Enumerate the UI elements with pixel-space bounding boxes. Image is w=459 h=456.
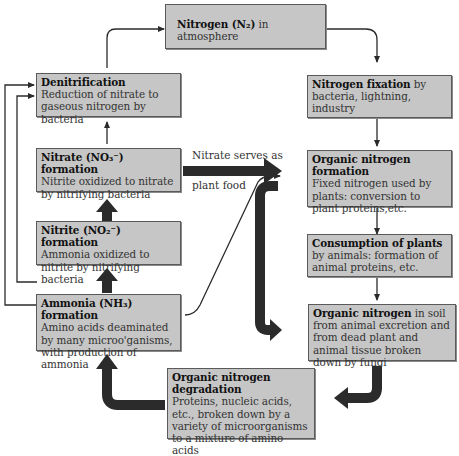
arrow-degradation-to-ammonia [107,367,165,405]
node-denitrification: Denitrification Reduction of nitrate to … [36,73,181,117]
node-heading: Organic nitrogen formation [312,153,411,177]
edge-label-bottom: plant food [192,179,246,191]
node-heading: Nitrite (NO₂⁻) formation [41,224,121,248]
node-heading: Denitrification [41,76,126,88]
arrow-denitrification-to-atmosphere [107,29,164,68]
node-heading: Organic nitrogen [313,307,412,319]
arrow-soil-to-degradation [346,366,377,398]
arrow-atmosphere-to-fixation [327,29,377,62]
arrow-nitrite-to-denitrification [17,96,37,282]
node-organic-nitrogen-formation: Organic nitrogen formationFixed nitrogen… [307,150,452,207]
node-heading: Nitrate (NO₃⁻) formation [41,151,124,175]
arrow-nitrite-to-nitrate [96,199,118,222]
node-heading: Nitrogen (N₂) [177,18,255,30]
node-heading: Nitrogen fixation [312,78,411,90]
node-nitrite-formation: Nitrite (NO₂⁻) formationAmmonia oxidized… [36,221,181,265]
node-organic-nitrogen-soil: Organic nitrogen in soil from animal exc… [308,304,456,361]
arrow-ammonia-to-denitrification [5,85,37,305]
node-heading: Consumption of plants [312,237,442,249]
node-heading: Organic nitrogen degradation [172,371,271,395]
edge-label-top: Nitrate serves as [192,149,283,161]
arrow-ammonia-to-organic-formation [185,176,280,315]
node-nitrogen-fixation: Nitrogen fixation by bacteria, lightning… [307,75,452,118]
node-heading: Ammonia (NH₃) formation [41,297,132,321]
node-body: Proteins, nucleic acids, etc., broken do… [172,395,308,456]
arrow-organic-formation-to-soil [260,186,278,330]
node-organic-nitrogen-degradation: Organic nitrogen degradationProteins, nu… [167,368,315,439]
node-nitrate-formation: Nitrate (NO₃⁻) formationNitrite oxidized… [36,148,181,192]
node-ammonia-formation: Ammonia (NH₃) formationAmino acids deami… [36,294,181,351]
node-consumption-of-plants: Consumption of plants by animals: format… [307,234,452,277]
node-atmosphere: Nitrogen (N₂) in atmosphere [165,4,326,49]
node-body: by animals: formation of animal proteins… [312,249,438,273]
